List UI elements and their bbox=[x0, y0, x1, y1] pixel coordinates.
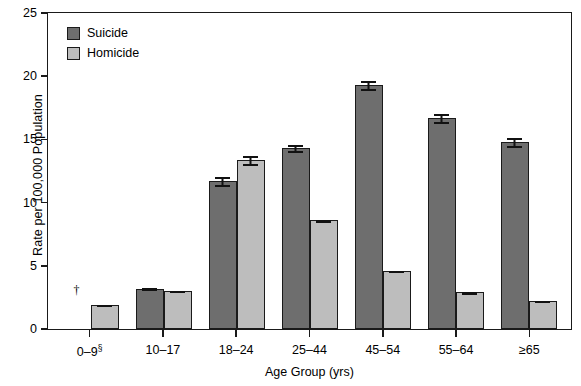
error-bar bbox=[149, 288, 150, 291]
x-tick-mark bbox=[455, 330, 457, 337]
y-tick-0: 0 bbox=[30, 322, 48, 336]
error-bar bbox=[396, 271, 397, 274]
x-tick-mark bbox=[529, 330, 531, 337]
y-tick-label: 10 bbox=[23, 196, 41, 210]
error-bar bbox=[469, 292, 470, 295]
bar-suicide bbox=[355, 85, 383, 329]
bar-slot-suicide: † bbox=[63, 13, 91, 329]
bar-homicide bbox=[91, 305, 119, 329]
bar-slot-homicide bbox=[237, 13, 265, 329]
bar-slot-suicide bbox=[136, 13, 164, 329]
error-bar bbox=[542, 301, 543, 304]
x-tick bbox=[273, 330, 346, 340]
bar-suicide bbox=[136, 289, 164, 329]
error-bar-cap-bottom bbox=[462, 293, 477, 295]
y-tick-10: 10 bbox=[23, 196, 48, 210]
error-bar bbox=[222, 177, 223, 187]
y-tick-mark bbox=[41, 265, 48, 267]
x-tick bbox=[419, 330, 492, 340]
x-axis-label: 10–17 bbox=[126, 343, 199, 359]
y-tick-label: 25 bbox=[23, 6, 41, 20]
y-tick-15: 15 bbox=[23, 132, 48, 146]
bar-slot-suicide bbox=[282, 13, 310, 329]
bar-slot-suicide bbox=[209, 13, 237, 329]
x-tick-mark bbox=[382, 330, 384, 337]
error-bar-cap-bottom bbox=[97, 305, 112, 307]
x-tick bbox=[493, 330, 566, 340]
x-tick-mark bbox=[162, 330, 164, 337]
error-bar bbox=[368, 81, 369, 91]
y-tick-mark bbox=[41, 12, 48, 14]
error-bar bbox=[177, 291, 178, 294]
error-bar-cap-bottom bbox=[507, 146, 522, 148]
x-axis-label: ≥65 bbox=[493, 343, 566, 359]
x-axis-label: 55–64 bbox=[419, 343, 492, 359]
bar-group bbox=[200, 13, 273, 329]
y-tick-label: 0 bbox=[30, 322, 41, 336]
x-tick-mark bbox=[235, 330, 237, 337]
y-tick-25: 25 bbox=[23, 6, 48, 20]
y-tick-label: 20 bbox=[23, 69, 41, 83]
x-axis-label-footnote-marker: § bbox=[98, 343, 103, 353]
x-axis-label: 18–24 bbox=[200, 343, 273, 359]
error-bar-cap-bottom bbox=[361, 89, 376, 91]
bar-suicide bbox=[282, 148, 310, 329]
bar-suicide bbox=[209, 181, 237, 329]
x-axis-label: 0–9§ bbox=[53, 343, 126, 359]
bars-layer: † bbox=[48, 13, 571, 329]
bar-slot-homicide bbox=[456, 13, 484, 329]
error-bar-cap-top bbox=[215, 177, 230, 179]
error-bar-cap-bottom bbox=[170, 291, 185, 293]
x-tick bbox=[53, 330, 126, 340]
bar-slot-suicide bbox=[501, 13, 529, 329]
bar-group bbox=[492, 13, 565, 329]
x-tick bbox=[346, 330, 419, 340]
x-axis-label: 25–44 bbox=[273, 343, 346, 359]
error-bar bbox=[514, 138, 515, 148]
bar-group bbox=[346, 13, 419, 329]
suppressed-value-marker: † bbox=[74, 284, 80, 296]
y-tick-20: 20 bbox=[23, 69, 48, 83]
bar-suicide bbox=[428, 118, 456, 329]
bar-slot-suicide bbox=[355, 13, 383, 329]
x-tick bbox=[126, 330, 199, 340]
error-bar bbox=[104, 305, 105, 308]
error-bar-cap-bottom bbox=[142, 289, 157, 291]
bar-homicide bbox=[529, 301, 557, 329]
error-bar bbox=[250, 156, 251, 166]
x-axis-labels: 0–9§10–1718–2425–4445–5455–64≥65 bbox=[47, 343, 572, 359]
error-bar bbox=[441, 114, 442, 124]
error-bar bbox=[323, 220, 324, 223]
bar-slot-homicide bbox=[310, 13, 338, 329]
error-bar-cap-bottom bbox=[243, 164, 258, 166]
bar-homicide bbox=[237, 160, 265, 329]
error-bar-cap-bottom bbox=[389, 271, 404, 273]
y-tick-label: 15 bbox=[23, 132, 41, 146]
x-tick bbox=[200, 330, 273, 340]
bar-homicide bbox=[383, 271, 411, 329]
bar-group bbox=[127, 13, 200, 329]
bar-homicide bbox=[310, 220, 338, 329]
error-bar-cap-bottom bbox=[535, 301, 550, 303]
error-bar-cap-bottom bbox=[215, 185, 230, 187]
bar-slot-suicide bbox=[428, 13, 456, 329]
bar-suicide bbox=[501, 142, 529, 329]
y-tick-mark bbox=[41, 139, 48, 141]
x-axis-title: Age Group (yrs) bbox=[47, 365, 572, 379]
bar-group bbox=[419, 13, 492, 329]
bar-slot-homicide bbox=[529, 13, 557, 329]
error-bar bbox=[295, 145, 296, 153]
error-bar-cap-bottom bbox=[288, 151, 303, 153]
bar-homicide bbox=[456, 292, 484, 329]
error-bar-cap-bottom bbox=[434, 122, 449, 124]
y-tick-mark bbox=[41, 202, 48, 204]
bar-group bbox=[273, 13, 346, 329]
y-tick-label: 5 bbox=[30, 259, 41, 273]
error-bar-cap-top bbox=[507, 138, 522, 140]
error-bar-cap-bottom bbox=[316, 221, 331, 223]
error-bar-cap-top bbox=[288, 145, 303, 147]
bar-group: † bbox=[54, 13, 127, 329]
bar-slot-homicide bbox=[91, 13, 119, 329]
bar-chart: Rate per 100,000 Population 2520151050 S… bbox=[0, 0, 581, 386]
bar-slot-homicide bbox=[164, 13, 192, 329]
